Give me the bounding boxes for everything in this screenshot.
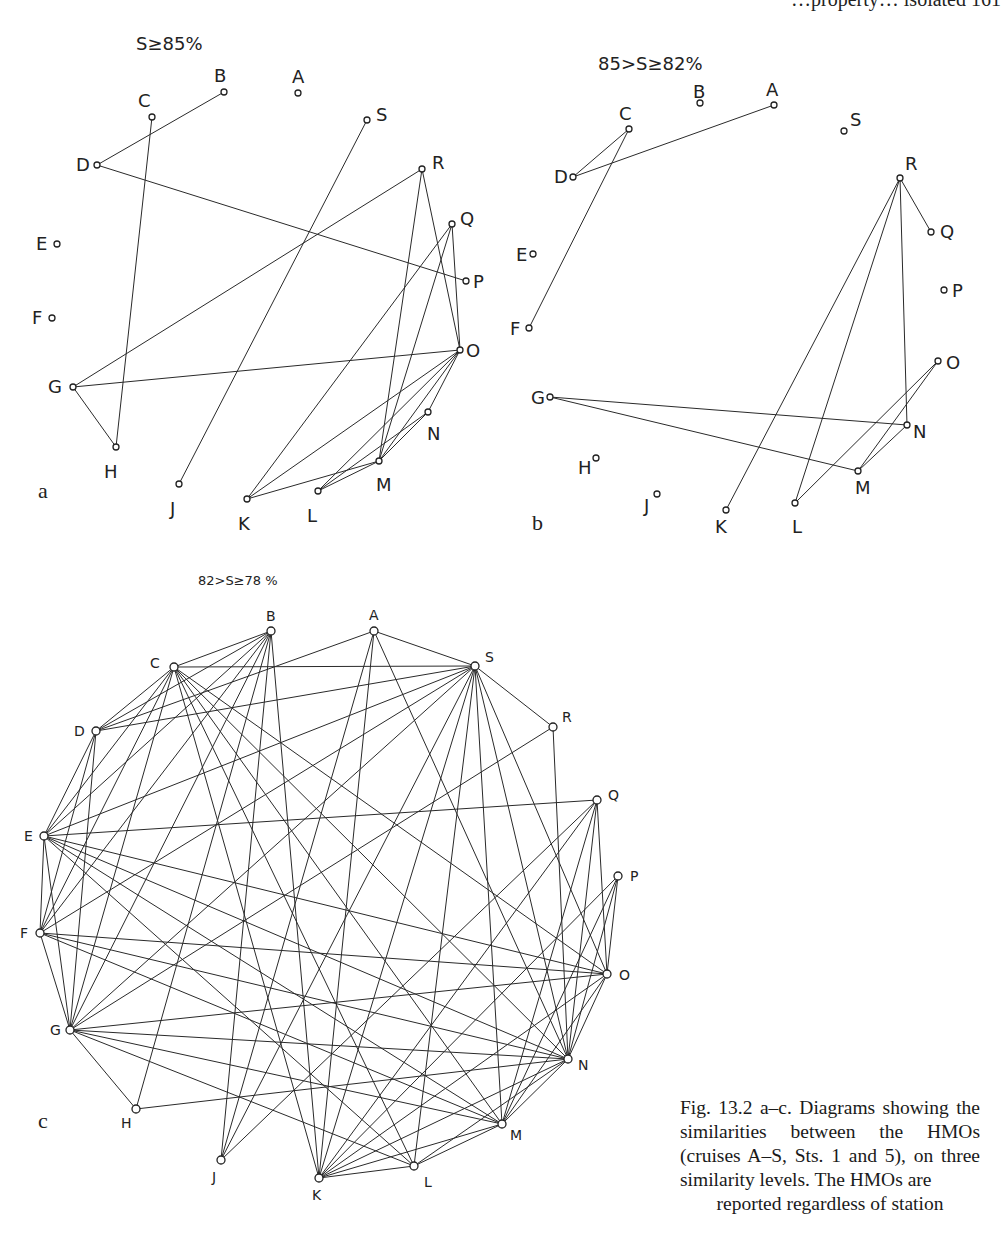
node-Q bbox=[449, 221, 455, 227]
node-P bbox=[614, 872, 622, 880]
edge-C-M bbox=[174, 667, 502, 1124]
node-label-S: S bbox=[850, 109, 861, 130]
edge-C-F bbox=[529, 129, 629, 328]
node-K bbox=[315, 1174, 323, 1182]
node-label-E: E bbox=[24, 828, 33, 844]
node-H bbox=[593, 455, 599, 461]
node-J bbox=[654, 491, 660, 497]
edge-O-M bbox=[858, 361, 938, 471]
edge-O-P bbox=[607, 876, 618, 974]
node-label-Q: Q bbox=[940, 221, 954, 242]
caption-last-line: reported regardless of station bbox=[680, 1192, 980, 1216]
node-F bbox=[36, 929, 44, 937]
edge-F-G bbox=[40, 933, 70, 1030]
threshold-label: S≥85% bbox=[136, 33, 203, 54]
node-N bbox=[564, 1055, 572, 1063]
edge-M-O bbox=[502, 974, 607, 1124]
node-H bbox=[132, 1105, 140, 1113]
figure-caption: Fig. 13.2 a–c. Diagrams showing the simi… bbox=[680, 1096, 980, 1216]
node-label-N: N bbox=[427, 423, 440, 444]
node-label-H: H bbox=[121, 1115, 132, 1131]
node-label-Q: Q bbox=[608, 787, 619, 803]
node-E bbox=[40, 832, 48, 840]
node-label-C: C bbox=[138, 90, 151, 111]
node-B bbox=[267, 627, 275, 635]
node-O bbox=[603, 970, 611, 978]
edge-C-O bbox=[174, 667, 607, 974]
node-label-D: D bbox=[76, 154, 90, 175]
node-label-L: L bbox=[424, 1174, 432, 1190]
node-label-S: S bbox=[485, 649, 494, 665]
node-B bbox=[221, 89, 227, 95]
panel-letter: b bbox=[532, 510, 543, 535]
node-label-K: K bbox=[715, 516, 728, 537]
node-label-P: P bbox=[473, 271, 484, 292]
edge-J-Q bbox=[221, 800, 597, 1160]
edge-C-D bbox=[96, 667, 174, 731]
node-label-P: P bbox=[630, 868, 638, 884]
edge-L-S bbox=[414, 666, 475, 1166]
edge-J-S bbox=[221, 666, 475, 1160]
node-label-K: K bbox=[312, 1187, 322, 1203]
edge-A-D bbox=[96, 631, 374, 731]
node-label-O: O bbox=[946, 352, 960, 373]
node-label-M: M bbox=[510, 1127, 522, 1143]
node-A bbox=[295, 90, 301, 96]
edge-G-N bbox=[550, 397, 907, 425]
node-G bbox=[70, 384, 76, 390]
node-label-C: C bbox=[150, 655, 160, 671]
node-label-L: L bbox=[307, 505, 317, 526]
node-label-F: F bbox=[510, 318, 520, 339]
edge-C-D bbox=[573, 129, 629, 177]
edge-K-P bbox=[319, 876, 618, 1178]
node-label-J: J bbox=[211, 1169, 216, 1185]
node-F bbox=[49, 315, 55, 321]
node-C bbox=[170, 663, 178, 671]
node-F bbox=[526, 325, 532, 331]
edge-R-L bbox=[795, 178, 900, 503]
node-M bbox=[376, 458, 382, 464]
threshold-label: 85>S≥82% bbox=[598, 53, 703, 74]
node-Q bbox=[593, 796, 601, 804]
edge-E-L bbox=[44, 836, 414, 1166]
node-label-B: B bbox=[214, 65, 226, 86]
edge-O-L bbox=[318, 350, 460, 491]
panel-b-diagram: ABCDEFGHJKLMNOPQRS85>S≥82%b bbox=[510, 53, 963, 537]
node-D bbox=[92, 727, 100, 735]
edge-G-R bbox=[73, 169, 422, 387]
node-label-O: O bbox=[619, 967, 630, 983]
edge-Q-K bbox=[247, 224, 452, 499]
node-J bbox=[176, 481, 182, 487]
edge-K-M bbox=[319, 1124, 502, 1178]
node-label-B: B bbox=[266, 608, 276, 624]
edge-R-M bbox=[379, 169, 422, 461]
edge-A-K bbox=[319, 631, 374, 1178]
node-C bbox=[626, 126, 632, 132]
node-label-S: S bbox=[376, 104, 387, 125]
edge-N-L bbox=[318, 412, 428, 491]
node-label-P: P bbox=[952, 280, 963, 301]
node-K bbox=[723, 507, 729, 513]
edge-B-G bbox=[70, 631, 271, 1030]
node-G bbox=[547, 394, 553, 400]
node-label-G: G bbox=[48, 376, 62, 397]
edge-G-L bbox=[70, 1030, 414, 1166]
edge-S-J bbox=[179, 120, 367, 484]
edge-F-S bbox=[40, 666, 475, 933]
node-label-E: E bbox=[516, 244, 527, 265]
edge-E-G bbox=[44, 836, 70, 1030]
node-label-M: M bbox=[376, 474, 392, 495]
node-G bbox=[66, 1026, 74, 1034]
node-R bbox=[419, 166, 425, 172]
node-label-D: D bbox=[74, 723, 85, 739]
node-label-G: G bbox=[531, 387, 545, 408]
node-label-J: J bbox=[169, 498, 175, 519]
edge-B-J bbox=[221, 631, 271, 1160]
edge-B-K bbox=[271, 631, 319, 1178]
edge-M-P bbox=[502, 876, 618, 1124]
edge-E-S bbox=[44, 666, 475, 836]
edge-G-H bbox=[73, 387, 116, 447]
node-label-O: O bbox=[466, 340, 480, 361]
edge-C-H bbox=[116, 117, 152, 447]
node-N bbox=[425, 409, 431, 415]
